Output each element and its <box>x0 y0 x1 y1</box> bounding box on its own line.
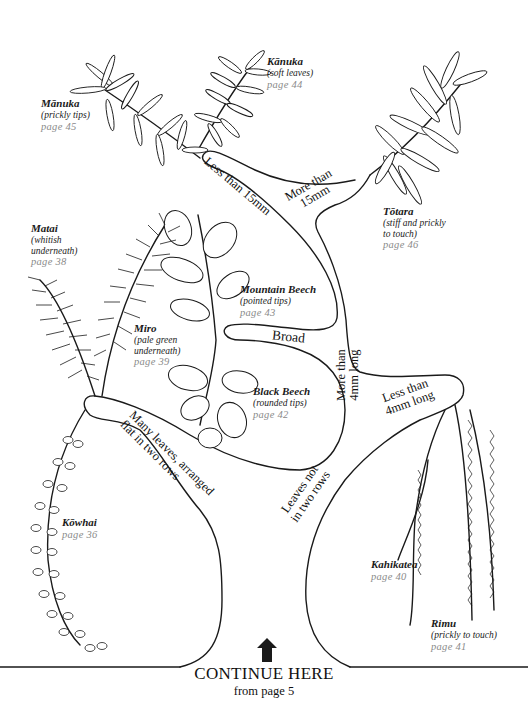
species-note: (soft leaves) <box>267 68 313 79</box>
species-black-beech[interactable]: Black Beech (rounded tips) page 42 <box>253 385 310 421</box>
species-note: (rounded tips) <box>253 398 310 409</box>
species-manuka[interactable]: Mānuka (prickly tips) page 45 <box>41 97 90 133</box>
miro-stem <box>102 225 165 396</box>
page-link[interactable]: page 36 <box>62 529 98 541</box>
kahikatea-stem <box>410 410 445 625</box>
totara-leaves <box>373 50 489 206</box>
species-name: Black Beech <box>253 385 310 398</box>
more-than-4mm-line2: 4mm long <box>348 349 361 401</box>
species-note: (prickly to touch) <box>431 630 497 641</box>
species-note-line2: underneath) <box>31 246 77 257</box>
species-name: Matai <box>31 222 77 235</box>
species-name: Kōwhai <box>62 516 98 529</box>
page-link[interactable]: page 44 <box>267 79 313 91</box>
page-link[interactable]: page 45 <box>41 121 90 133</box>
species-note-line2: to touch) <box>383 229 446 240</box>
species-name: Tōtara <box>383 205 446 218</box>
species-kanuka[interactable]: Kānuka (soft leaves) page 44 <box>267 55 313 91</box>
species-name: Mountain Beech <box>240 283 316 296</box>
up-arrow-icon <box>257 638 277 662</box>
species-note-line1: (pale green <box>134 335 180 346</box>
species-note-line1: (stiff and prickly <box>383 218 446 229</box>
species-name: Kānuka <box>267 55 313 68</box>
species-rimu[interactable]: Rimu (prickly to touch) page 41 <box>431 617 497 653</box>
species-name: Miro <box>134 322 180 335</box>
page-link[interactable]: page 40 <box>371 571 417 583</box>
rimu-stem <box>455 405 472 620</box>
species-miro[interactable]: Miro (pale green underneath) page 39 <box>134 322 180 369</box>
species-kahikatea[interactable]: Kahikatea page 40 <box>371 558 417 583</box>
kanuka-leaves <box>182 49 271 153</box>
species-mountain-beech[interactable]: Mountain Beech (pointed tips) page 43 <box>240 283 316 319</box>
species-name: Kahikatea <box>371 558 417 571</box>
continue-here-title: CONTINUE HERE <box>0 664 528 684</box>
page-link[interactable]: page 41 <box>431 641 497 653</box>
page-link[interactable]: page 43 <box>240 307 316 319</box>
rimu-stem-2 <box>470 410 494 610</box>
species-kowhai[interactable]: Kōwhai page 36 <box>62 516 98 541</box>
page-link[interactable]: page 39 <box>134 356 180 368</box>
species-name: Rimu <box>431 617 497 630</box>
species-note-line1: (whitish <box>31 235 77 246</box>
kahikatea-stem-2 <box>398 460 428 560</box>
page-link[interactable]: page 46 <box>383 239 446 251</box>
species-totara[interactable]: Tōtara (stiff and prickly to touch) page… <box>383 205 446 252</box>
kowhai-leaflets <box>31 437 107 652</box>
black-beech-leaves <box>166 361 260 448</box>
branch-label-more-than-4mm: More than 4mm long <box>335 349 361 401</box>
continue-from-page[interactable]: from page 5 <box>0 684 528 699</box>
matai-stem <box>40 280 95 396</box>
species-note: (pointed tips) <box>240 296 316 307</box>
species-note-line2: underneath) <box>134 346 180 357</box>
species-name: Mānuka <box>41 97 90 110</box>
species-note: (prickly tips) <box>41 110 90 121</box>
species-matai[interactable]: Matai (whitish underneath) page 38 <box>31 222 77 269</box>
page-link[interactable]: page 38 <box>31 256 77 268</box>
page-link[interactable]: page 42 <box>253 409 310 421</box>
